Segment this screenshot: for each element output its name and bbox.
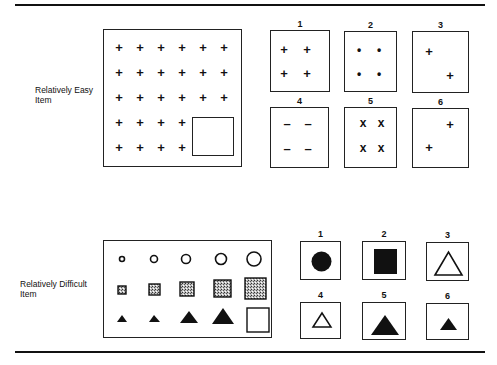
minus-icon: – (304, 142, 311, 155)
difficult-item-label-line2: Item (20, 289, 87, 299)
dot-icon: • (377, 44, 381, 56)
option-shape (363, 303, 407, 341)
option-shape (301, 242, 342, 281)
plus-icon: + (199, 91, 207, 104)
difficult-option-2[interactable] (362, 241, 406, 280)
easy-item-label-line2: Item (35, 95, 93, 105)
stippled-square-icon (214, 280, 231, 297)
open-circle-icon (182, 255, 191, 264)
option-shape (427, 243, 470, 282)
difficult-item-label-line1: Relatively Difficult (20, 279, 87, 289)
easy-item-matrix: ++++++++++++++++++++++++++ (103, 29, 242, 167)
plus-icon: + (303, 67, 311, 80)
stippled-square-icon (245, 278, 266, 299)
difficult-option-3[interactable] (426, 242, 469, 281)
minus-icon: – (304, 117, 311, 130)
open-circle-icon (247, 252, 261, 266)
plus-icon: + (178, 116, 186, 129)
dot-icon: • (357, 44, 361, 56)
plus-icon: + (425, 141, 433, 154)
x-mark-icon: x (378, 117, 385, 129)
filled-circle-icon (312, 252, 332, 272)
minus-icon: – (283, 117, 290, 130)
plus-icon: + (303, 43, 311, 56)
easy-option-5[interactable]: xxxx (344, 107, 397, 168)
easy-option-number: 1 (290, 19, 310, 29)
open-triangle-icon (435, 252, 462, 275)
easy-option-number: 6 (431, 97, 451, 107)
plus-icon: + (178, 141, 186, 154)
plus-icon: + (136, 66, 144, 79)
filled-triangle-icon (149, 315, 160, 322)
plus-icon: + (157, 141, 165, 154)
plus-icon: + (220, 91, 228, 104)
filled-triangle-icon (440, 318, 457, 330)
x-mark-icon: x (360, 117, 367, 129)
x-mark-icon: x (360, 142, 367, 154)
open-triangle-icon (313, 313, 331, 327)
easy-option-6[interactable]: ++ (412, 108, 469, 168)
filled-triangle-icon (212, 308, 234, 324)
plus-icon: + (157, 41, 165, 54)
difficult-option-6[interactable] (426, 303, 469, 340)
plus-icon: + (280, 43, 288, 56)
plus-icon: + (157, 91, 165, 104)
stippled-square-icon (180, 282, 194, 296)
difficult-option-number: 2 (374, 229, 394, 239)
open-circle-icon (151, 256, 158, 263)
difficult-matrix-missing-cell (247, 308, 269, 332)
dot-icon: • (357, 68, 361, 80)
plus-icon: + (115, 141, 123, 154)
easy-option-number: 3 (431, 20, 451, 30)
difficult-matrix-shapes (104, 241, 273, 339)
easy-option-number: 2 (361, 20, 381, 30)
difficult-option-number: 5 (374, 290, 394, 300)
plus-icon: + (115, 116, 123, 129)
easy-option-3[interactable]: ++ (412, 31, 469, 93)
triangle-row (117, 308, 234, 324)
open-circle-icon (216, 254, 227, 265)
bottom-rule (15, 351, 485, 353)
easy-item-label: Relatively Easy Item (35, 85, 93, 105)
plus-icon: + (199, 66, 207, 79)
plus-icon: + (446, 69, 454, 82)
difficult-option-1[interactable] (300, 241, 341, 280)
stippled-square-row (118, 278, 266, 299)
circle-row (120, 252, 262, 266)
easy-matrix-missing-cell (192, 117, 234, 156)
filled-triangle-icon (117, 315, 127, 322)
plus-icon: + (446, 118, 454, 131)
plus-icon: + (425, 45, 433, 58)
x-mark-icon: x (378, 142, 385, 154)
plus-icon: + (178, 66, 186, 79)
difficult-option-number: 4 (311, 290, 331, 300)
stippled-square-icon (149, 284, 160, 295)
plus-icon: + (136, 41, 144, 54)
easy-option-2[interactable]: •••• (344, 31, 397, 92)
option-shape (363, 242, 407, 281)
plus-icon: + (280, 67, 288, 80)
filled-square-icon (374, 249, 397, 274)
option-shape (427, 304, 470, 341)
difficult-item-matrix (103, 240, 272, 338)
difficult-item-label: Relatively Difficult Item (20, 279, 87, 299)
minus-icon: – (283, 142, 290, 155)
option-shape (301, 303, 342, 340)
plus-icon: + (157, 116, 165, 129)
plus-icon: + (157, 66, 165, 79)
easy-option-4[interactable]: –––– (270, 107, 329, 168)
difficult-option-number: 6 (438, 291, 458, 301)
dot-icon: • (377, 68, 381, 80)
filled-triangle-icon (180, 311, 198, 323)
easy-item-label-line1: Relatively Easy (35, 85, 93, 95)
easy-option-1[interactable]: ++++ (270, 30, 330, 92)
plus-icon: + (115, 66, 123, 79)
plus-icon: + (136, 141, 144, 154)
difficult-option-4[interactable] (300, 302, 341, 339)
plus-icon: + (115, 41, 123, 54)
filled-triangle-icon (371, 315, 399, 335)
top-rule (15, 4, 485, 6)
plus-icon: + (115, 91, 123, 104)
open-circle-icon (120, 257, 125, 262)
difficult-option-5[interactable] (362, 302, 406, 340)
